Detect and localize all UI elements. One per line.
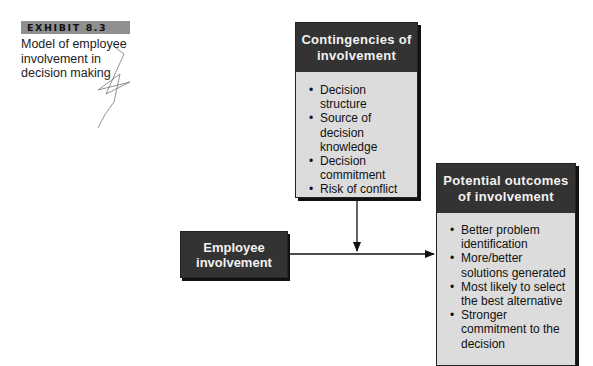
- contingencies-box: Contingencies of involvement Decision st…: [295, 22, 418, 198]
- employee-involvement-box: Employee involvement: [180, 231, 288, 278]
- list-item: More/better solutions generated: [461, 251, 571, 279]
- contingencies-title: Contingencies of involvement: [296, 23, 417, 72]
- list-item: Most likely to select the best alternati…: [461, 280, 571, 308]
- list-item: Decision commitment: [320, 154, 413, 182]
- list-item: Risk of conflict: [320, 182, 413, 196]
- list-item: Stronger commitment to the decision: [461, 308, 571, 351]
- outcomes-box: Potential outcomes of involvement Better…: [436, 163, 576, 366]
- list-item: Source of decision knowledge: [320, 111, 413, 154]
- employee-involvement-title: Employee involvement: [181, 240, 287, 270]
- outcomes-title: Potential outcomes of involvement: [437, 164, 575, 213]
- list-item: Better problem identification: [461, 223, 571, 251]
- list-item: Decision structure: [320, 83, 413, 111]
- outcomes-list: Better problem identification More/bette…: [443, 223, 571, 351]
- contingencies-list: Decision structure Source of decision kn…: [302, 83, 413, 197]
